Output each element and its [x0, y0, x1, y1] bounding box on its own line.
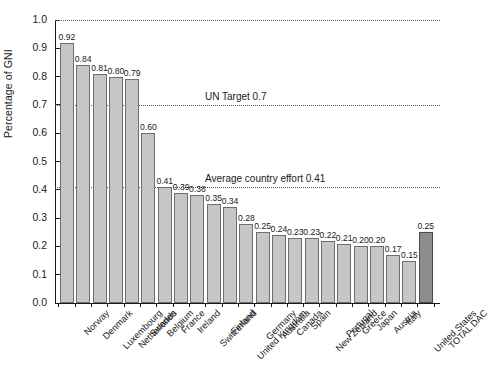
- x-axis-label: Finland: [229, 308, 258, 337]
- footer-caption-strip: [0, 384, 456, 392]
